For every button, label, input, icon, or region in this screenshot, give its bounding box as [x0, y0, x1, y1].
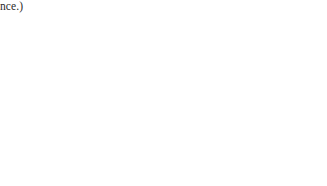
- caption-text-fragment: nce.): [0, 0, 23, 13]
- figure-canvas: nce.): [0, 0, 327, 186]
- polyhedron-wireframe: [0, 0, 327, 186]
